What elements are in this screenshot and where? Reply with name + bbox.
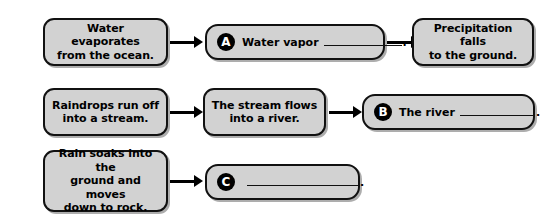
- answer-box-c[interactable]: C .: [205, 164, 360, 200]
- box-stream-flows-label: The stream flows into a river.: [206, 99, 323, 126]
- box-raindrops-run-off: Raindrops run off into a stream.: [43, 88, 168, 136]
- answer-box-c-suffix: .: [360, 176, 364, 189]
- box-rain-soaks-label: Rain soaks into the ground and moves dow…: [45, 147, 166, 214]
- arrow-row3-1: [170, 175, 203, 187]
- answer-box-a-text: Water vapor .: [242, 36, 407, 49]
- arrow-head: [353, 106, 362, 118]
- arrow-shaft: [170, 180, 195, 183]
- answer-box-b-text: The river .: [399, 106, 540, 119]
- answer-box-c-text: .: [242, 176, 364, 189]
- answer-box-b-suffix: .: [536, 106, 540, 119]
- answer-box-b[interactable]: B The river .: [362, 94, 535, 130]
- box-water-evaporates-label: Water evaporates from the ocean.: [45, 22, 166, 62]
- answer-box-b-prefix: The river: [399, 106, 455, 119]
- arrow-head: [194, 106, 203, 118]
- water-cycle-diagram: Water evaporates from the ocean. A Water…: [0, 0, 545, 222]
- answer-box-a-prefix: Water vapor: [242, 36, 319, 49]
- box-precipitation-falls-label: Precipitation falls to the ground.: [414, 22, 532, 62]
- arrow-row2-1: [170, 106, 203, 118]
- arrow-head: [194, 36, 203, 48]
- badge-b-icon: B: [374, 103, 392, 121]
- arrow-head: [194, 175, 203, 187]
- box-rain-soaks: Rain soaks into the ground and moves dow…: [43, 150, 168, 212]
- badge-a-icon: A: [217, 33, 235, 51]
- box-stream-flows: The stream flows into a river.: [203, 88, 326, 136]
- arrow-shaft: [329, 111, 354, 114]
- box-water-evaporates: Water evaporates from the ocean.: [43, 18, 168, 66]
- box-raindrops-run-off-label: Raindrops run off into a stream.: [46, 99, 165, 126]
- blank-line-b[interactable]: [460, 106, 535, 116]
- arrow-row1-1: [170, 36, 203, 48]
- box-precipitation-falls: Precipitation falls to the ground.: [412, 18, 534, 66]
- arrow-shaft: [387, 41, 412, 44]
- arrow-row2-2: [329, 106, 362, 118]
- arrow-shaft: [170, 41, 195, 44]
- badge-c-icon: C: [217, 173, 235, 191]
- blank-line-c[interactable]: [247, 176, 359, 186]
- arrow-shaft: [170, 111, 195, 114]
- answer-box-a[interactable]: A Water vapor .: [205, 24, 385, 60]
